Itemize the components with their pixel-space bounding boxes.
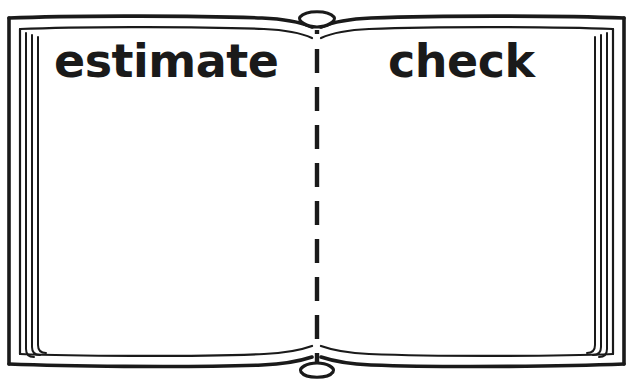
worksheet-canvas: estimate check xyxy=(0,0,633,390)
left-page-heading: estimate xyxy=(54,38,279,84)
right-page-heading: check xyxy=(388,38,535,84)
